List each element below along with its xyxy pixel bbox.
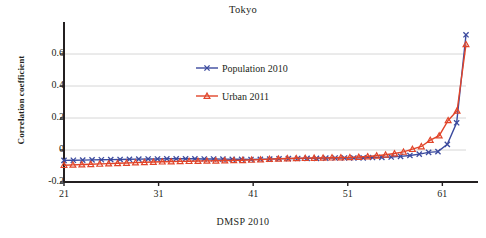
series-urban-2011 (61, 42, 469, 168)
legend-label: Urban 2011 (222, 91, 269, 102)
chart-figure: Tokyo Correlation coefficient DMSP 2010 … (0, 0, 486, 238)
legend-item-population-2010[interactable]: Population 2010 (196, 63, 288, 74)
plot-area: Population 2010Urban 2011 (0, 0, 486, 238)
chart-legend: Population 2010Urban 2011 (196, 63, 288, 102)
legend-label: Population 2010 (222, 63, 288, 74)
legend-item-urban-2011[interactable]: Urban 2011 (196, 91, 269, 102)
data-marker (445, 142, 450, 147)
